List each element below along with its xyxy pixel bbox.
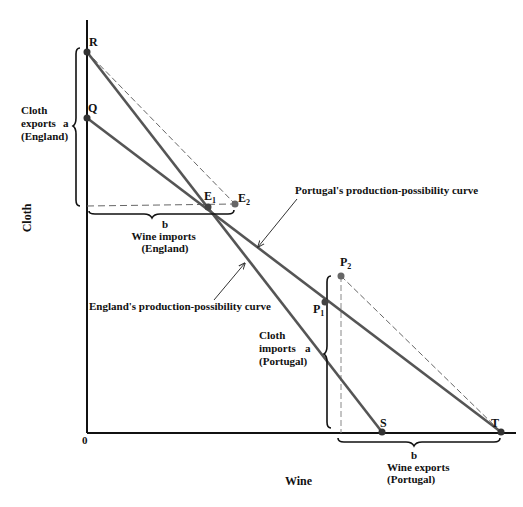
england-ppc xyxy=(87,118,501,432)
x-axis-label: Wine xyxy=(285,474,313,488)
wine-exports-portugal-letter: b xyxy=(411,449,417,461)
ppc-trade-diagram: 0 Cloth Wine Cloth exports (England) a b… xyxy=(0,0,523,507)
point-e1 xyxy=(205,204,212,211)
brace-cloth-exports-england xyxy=(73,48,80,206)
wine-exports-portugal-label: Wine exports (Portugal) xyxy=(387,461,452,486)
wine-imports-england-letter: b xyxy=(162,218,168,230)
cloth-exports-england-label: Cloth exports (England) xyxy=(21,104,68,143)
label-r: R xyxy=(89,35,98,49)
portugal-ppc xyxy=(87,52,382,432)
point-q xyxy=(84,115,91,122)
cloth-exports-england-letter: a xyxy=(63,117,69,129)
label-p2: P2 xyxy=(340,255,351,271)
label-q: Q xyxy=(88,101,97,115)
origin-label: 0 xyxy=(82,434,88,446)
label-e1: E1 xyxy=(204,189,216,205)
cloth-imports-portugal-label: Cloth imports (Portugal) xyxy=(259,329,308,368)
cloth-imports-portugal-letter: a xyxy=(305,342,311,354)
brace-wine-imports-england xyxy=(89,210,234,218)
point-p2 xyxy=(338,273,345,280)
england-curve-arrow xyxy=(214,263,245,300)
point-r xyxy=(84,49,91,56)
portugal-curve-label: Portugal's production-possibility curve xyxy=(295,184,478,196)
point-p1 xyxy=(322,299,329,306)
y-axis-label: Cloth xyxy=(20,203,34,232)
england-trade-line xyxy=(87,52,235,204)
label-e2: E2 xyxy=(238,191,250,207)
portugal-curve-arrow xyxy=(258,199,297,247)
brace-wine-exports-portugal xyxy=(338,438,500,446)
wine-imports-england-label: Wine imports (England) xyxy=(131,230,198,255)
label-s: S xyxy=(380,416,387,430)
label-t: T xyxy=(491,416,499,430)
england-curve-label: England's production-possibility curve xyxy=(89,300,271,312)
